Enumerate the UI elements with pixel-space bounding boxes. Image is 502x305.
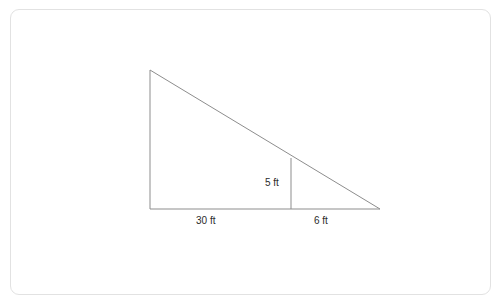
label-interior-height: 5 ft — [265, 177, 279, 188]
triangle-hypotenuse — [150, 70, 380, 209]
diagram-canvas: 30 ft 6 ft 5 ft — [0, 0, 502, 305]
label-base-left-segment: 30 ft — [196, 215, 216, 226]
label-base-right-segment: 6 ft — [314, 215, 328, 226]
triangle-figure: 30 ft 6 ft 5 ft — [0, 0, 502, 305]
